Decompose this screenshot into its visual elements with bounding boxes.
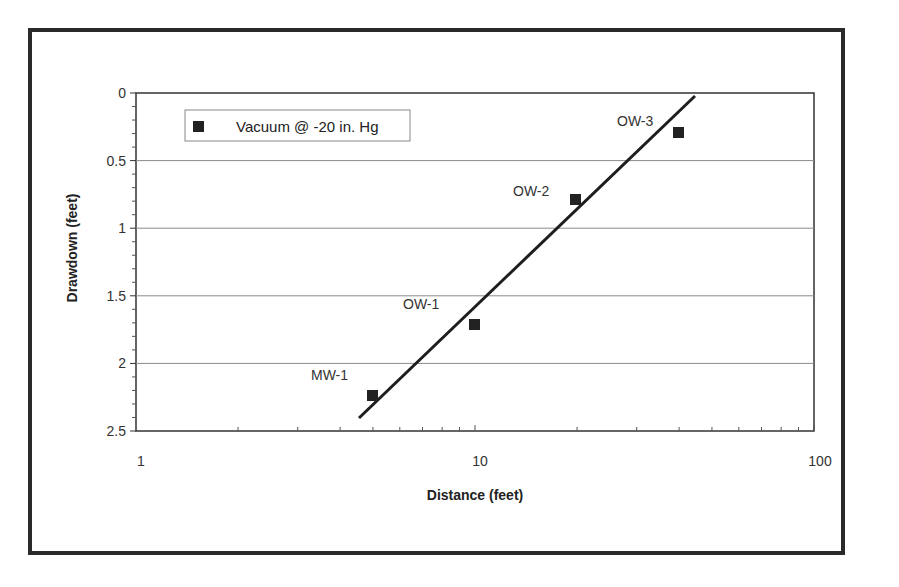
x-tick-labels: 1 10 100 [137,453,832,469]
y-tick-0: 0 [118,85,126,101]
x-axis-title: Distance (feet) [427,487,523,503]
data-point-ow-3 [673,127,684,138]
y-tick-2.5: 2.5 [107,423,127,439]
plot-area [136,93,814,431]
legend: Vacuum @ -20 in. Hg [185,110,410,141]
y-tick-labels: 0 0.5 1 1.5 2 2.5 [107,85,127,439]
legend-marker-square-icon [193,121,204,132]
y-axis-title: Drawdown (feet) [64,194,80,303]
data-point-ow-1 [469,319,480,330]
label-mw-1: MW-1 [311,367,348,383]
label-ow-1: OW-1 [403,296,440,312]
x-tick-100: 100 [808,453,832,469]
legend-label: Vacuum @ -20 in. Hg [236,118,379,135]
y-tick-2: 2 [118,355,126,371]
x-tick-1: 1 [137,453,145,469]
y-tick-1.5: 1.5 [107,288,127,304]
label-ow-3: OW-3 [617,113,654,129]
y-tick-0.5: 0.5 [107,153,127,169]
data-point-mw-1 [367,390,378,401]
y-tick-1: 1 [118,220,126,236]
x-tick-10: 10 [472,453,488,469]
drawdown-chart: 0 0.5 1 1.5 2 2.5 1 10 100 Distance (fee… [0,0,899,587]
label-ow-2: OW-2 [513,183,550,199]
y-axis-major-ticks [130,93,136,431]
data-point-ow-2 [570,194,581,205]
